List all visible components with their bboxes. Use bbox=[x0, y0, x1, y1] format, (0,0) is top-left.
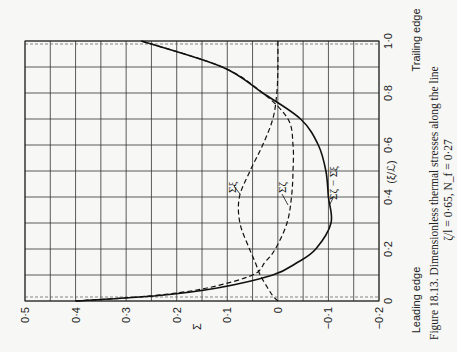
sigma-tick-label: 0 bbox=[272, 307, 284, 313]
xi-tick-label: 0 bbox=[382, 298, 394, 304]
sigma-tick-label: −0·2 bbox=[373, 307, 385, 329]
annotation-difference: Σζ − Σξ bbox=[327, 166, 340, 204]
sigma-tick-label: 0·5 bbox=[19, 307, 31, 323]
sigma-tick-label: 0·4 bbox=[70, 307, 82, 323]
sigma-tick-label: 0·3 bbox=[120, 307, 132, 323]
trailing-edge-label: Trailing edge bbox=[410, 8, 422, 71]
arrow-icon bbox=[282, 194, 288, 205]
figure-caption-line1: Figure 18.13. Dimensionless thermal stre… bbox=[428, 66, 441, 340]
annotation-sigma-xi: Σξ bbox=[226, 182, 240, 194]
sigma-tick-label: 0·1 bbox=[221, 307, 233, 323]
xi-tick-label: 0·2 bbox=[382, 241, 394, 257]
sigma-axis-label: Σ bbox=[191, 323, 203, 330]
sigma-tick-label: −0·1 bbox=[322, 307, 334, 329]
xi-tick-label: 1·0 bbox=[382, 33, 394, 49]
label-difference: Σζ − Σξ bbox=[327, 166, 340, 200]
leading-edge-label: Leading edge bbox=[410, 267, 422, 334]
sigma-tick-label: 0·2 bbox=[171, 307, 183, 323]
stress-chart: Σξ Σζ Σζ − Σξ 0·50·40·30·20·10−0·1−0·2 Σ… bbox=[0, 0, 457, 352]
xi-tick-label: 0·8 bbox=[382, 85, 394, 101]
xi-tick-label: 0·6 bbox=[382, 137, 394, 153]
xi-tick-label: 0·4 bbox=[382, 189, 394, 205]
figure-caption-line2: ζ/l = 0·65, N_f = 0·27 bbox=[442, 139, 455, 241]
label-sigma-zeta: Σζ bbox=[276, 182, 289, 193]
label-sigma-xi: Σξ bbox=[226, 182, 239, 193]
xi-axis-label: (ξ/ℒ) bbox=[385, 160, 397, 183]
